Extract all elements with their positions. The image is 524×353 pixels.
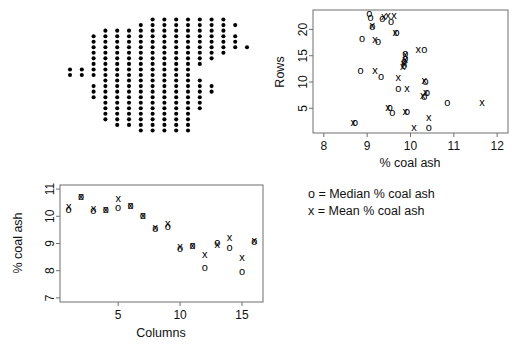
sampling-grid-dot (186, 51, 190, 55)
sampling-grid-dot (198, 90, 202, 94)
sampling-grid-dot (103, 29, 107, 33)
sampling-grid-dot (198, 40, 202, 44)
mean-marker: x (403, 105, 409, 117)
mean-marker: x (252, 234, 258, 246)
sampling-grid-dot (115, 62, 119, 66)
sampling-grid-dot (198, 23, 202, 27)
sampling-grid-dot (221, 51, 225, 55)
sampling-grid-dot (115, 56, 119, 60)
mean-marker: x (393, 26, 399, 38)
sampling-grid-dot (127, 79, 131, 83)
sampling-grid-dot (151, 117, 155, 121)
mean-marker: x (404, 82, 410, 94)
sampling-grid-dot (186, 67, 190, 71)
sampling-grid-dot (127, 117, 131, 121)
columns-plot-y-axis: 7891011 (43, 183, 60, 302)
sampling-grid-dot (139, 67, 143, 71)
sampling-grid-dot (245, 45, 249, 49)
sampling-grid-dot (115, 84, 119, 88)
sampling-grid-dot (186, 84, 190, 88)
sampling-grid-dot (174, 29, 178, 33)
sampling-grid-dot (174, 84, 178, 88)
sampling-grid-dot (139, 84, 143, 88)
sampling-grid-dot (233, 23, 237, 27)
sampling-grid-dot (186, 45, 190, 49)
sampling-grid-dot (127, 73, 131, 77)
mean-marker: x (153, 221, 159, 233)
sampling-grid-dot (103, 62, 107, 66)
sampling-grid-dot (221, 18, 225, 22)
median-marker: o (421, 43, 427, 55)
coal-ash-sampling-grid-plot (0, 0, 300, 160)
sampling-grid-dot (174, 123, 178, 127)
sampling-grid-dot (139, 112, 143, 116)
sampling-grid-dot (162, 128, 166, 132)
sampling-grid-dot (127, 90, 131, 94)
sampling-grid-dot (174, 90, 178, 94)
sampling-grid-dot (115, 106, 119, 110)
sampling-grid-dot (92, 40, 96, 44)
sampling-grid-dot (162, 40, 166, 44)
sampling-grid-dot (151, 79, 155, 83)
sampling-grid-dot (139, 56, 143, 60)
sampling-grid-dot (162, 18, 166, 22)
sampling-grid-dot (151, 84, 155, 88)
sampling-grid-dot (162, 79, 166, 83)
sampling-grid-dot (162, 62, 166, 66)
y-tick-label: 5 (296, 105, 310, 112)
sampling-grid-dot (92, 73, 96, 77)
sampling-grid-dot (210, 90, 214, 94)
sampling-grid-dot (198, 45, 202, 49)
sampling-grid-dot (127, 56, 131, 60)
sampling-grid-dot (103, 84, 107, 88)
median-marker: o (227, 241, 233, 253)
mean-marker: x (115, 192, 121, 204)
sampling-grid-dot (127, 40, 131, 44)
sampling-grid-dot (198, 29, 202, 33)
sampling-grid-dot (174, 101, 178, 105)
sampling-grid-dot (198, 95, 202, 99)
median-marker: o (202, 261, 208, 273)
sampling-grid-dot (210, 51, 214, 55)
sampling-grid-dot (115, 112, 119, 116)
sampling-grid-dot (210, 23, 214, 27)
sampling-grid-dot (174, 106, 178, 110)
sampling-grid-dot (151, 95, 155, 99)
sampling-grid-dot (68, 73, 72, 77)
sampling-grid-dot (210, 18, 214, 22)
sampling-grid-dot (103, 73, 107, 77)
sampling-grid-dot (174, 23, 178, 27)
sampling-grid-dot (233, 40, 237, 44)
mean-marker: x (202, 248, 208, 260)
median-marker: o (359, 32, 365, 44)
legend-mean-line: x = Mean % coal ash (308, 203, 524, 220)
sampling-grid-dot (186, 123, 190, 127)
mean-marker: x (140, 209, 146, 221)
sampling-grid-dot (151, 18, 155, 22)
sampling-grid-dot (151, 29, 155, 33)
sampling-grid-dot (103, 45, 107, 49)
sampling-grid-dot (174, 56, 178, 60)
mean-marker: x (422, 74, 428, 86)
sampling-grid-dot (151, 112, 155, 116)
sampling-grid-dot (174, 45, 178, 49)
sampling-grid-svg (0, 0, 300, 160)
sampling-grid-dot (151, 123, 155, 127)
sampling-grid-dot (162, 90, 166, 94)
sampling-grid-dot (198, 62, 202, 66)
sampling-grid-dot (186, 90, 190, 94)
coal-ash-by-column-plot: 51015 7891011 ooooooooooooooooxxxxxxxxxx… (0, 160, 285, 353)
sampling-grid-dot (127, 101, 131, 105)
mean-marker: x (214, 238, 220, 250)
sampling-grid-dot (115, 95, 119, 99)
sampling-grid-dot (186, 117, 190, 121)
x-tick-label: 10 (173, 308, 187, 322)
sampling-grid-dot (162, 51, 166, 55)
mean-marker: x (411, 121, 417, 133)
sampling-grid-dot (210, 34, 214, 38)
sampling-grid-dot (221, 45, 225, 49)
sampling-grid-dot (139, 73, 143, 77)
sampling-grid-dot (115, 123, 119, 127)
sampling-grid-dot (174, 51, 178, 55)
sampling-grid-dot (162, 95, 166, 99)
